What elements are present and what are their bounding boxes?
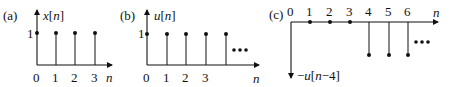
- x-tick: 0: [33, 70, 40, 85]
- sample-dot: [93, 31, 97, 35]
- x-tick: 1: [163, 70, 170, 85]
- sample-dot: [308, 20, 312, 24]
- y-tick-1: 1: [138, 26, 145, 41]
- sample-dot: [35, 31, 39, 35]
- sample-dot: [145, 32, 149, 36]
- sample-dot: [367, 53, 371, 57]
- x-axis-label: n: [433, 5, 440, 20]
- y-tick-1: 1: [27, 26, 34, 41]
- x-tick: 2: [326, 4, 333, 19]
- x-tick: 0: [287, 4, 294, 19]
- sample-dot: [328, 20, 332, 24]
- x-tick: 0: [143, 70, 150, 85]
- x-tick: 1: [306, 4, 313, 19]
- sample-dot: [165, 32, 169, 36]
- sample-dot: [406, 53, 410, 57]
- sample-dot: [184, 32, 188, 36]
- panel-c-label: (c): [269, 7, 283, 22]
- panel-b: (b) u[n] 1 0 1 2 3 n: [120, 8, 260, 86]
- sample-dot: [224, 32, 228, 36]
- x-axis-label: n: [253, 71, 260, 86]
- panel-a: (a) x[n] 1 0 1 2 3 n: [3, 8, 113, 85]
- sample-dot: [348, 20, 352, 24]
- sample-dot: [387, 53, 391, 57]
- signal-label: u[n]: [154, 8, 176, 23]
- x-tick: 3: [91, 70, 98, 85]
- sample-dot: [54, 31, 58, 35]
- stem-plot: [35, 31, 97, 65]
- sample-dot: [204, 32, 208, 36]
- signal-label: x[n]: [42, 8, 64, 23]
- sample-dot: [73, 31, 77, 35]
- ellipsis-icon: [414, 40, 430, 44]
- x-tick: 5: [385, 4, 392, 19]
- signal-label: −u[n−4]: [297, 68, 340, 83]
- ellipsis-icon: [232, 48, 248, 52]
- x-tick: 6: [404, 4, 411, 19]
- x-tick: 2: [71, 70, 78, 85]
- x-tick: 3: [346, 4, 353, 19]
- stem-plot: [308, 20, 410, 57]
- panel-a-label: (a): [3, 8, 17, 23]
- x-tick: 3: [202, 70, 209, 85]
- signal-diagrams: (a) x[n] 1 0 1 2 3 n (b) u[n] 1: [0, 0, 450, 87]
- panel-c: (c) 0 1 2 3 4 5 6 n −u[n−4]: [269, 4, 440, 83]
- x-tick: 2: [182, 70, 189, 85]
- x-tick: 1: [52, 70, 59, 85]
- x-axis-label: n: [106, 70, 113, 85]
- panel-b-label: (b): [120, 8, 135, 23]
- stem-plot: [145, 32, 228, 65]
- x-tick: 4: [365, 4, 372, 19]
